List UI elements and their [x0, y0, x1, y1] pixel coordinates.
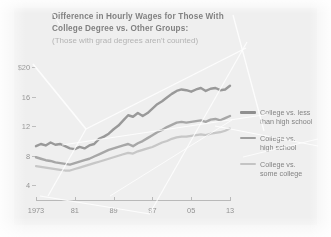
legend-label: College vs.high school [260, 134, 329, 153]
legend-swatch [240, 111, 256, 114]
legend-item[interactable]: College vs.high school [243, 134, 329, 153]
legend-swatch [240, 163, 256, 166]
legend-label: College vs. lessthan high school [260, 108, 329, 127]
legend-label: College vs.some college [260, 160, 329, 179]
chart-screenshot: Difference in Hourly Wages for Those Wit… [0, 0, 331, 237]
legend-swatch [240, 137, 256, 140]
series-line [36, 116, 230, 165]
series-line [36, 86, 230, 149]
legend-item[interactable]: College vs.some college [243, 160, 329, 179]
legend-item[interactable]: College vs. lessthan high school [243, 108, 329, 127]
chart-legend: College vs. lessthan high schoolCollege … [243, 108, 329, 185]
